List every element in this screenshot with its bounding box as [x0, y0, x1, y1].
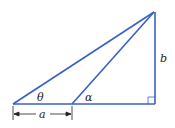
right-angle-marker [148, 97, 155, 104]
triangle-diagram: θ α b a [0, 0, 175, 128]
alpha-label: α [85, 91, 93, 104]
theta-label: θ [37, 91, 44, 104]
triangle-lines [13, 12, 155, 104]
b-label: b [160, 52, 167, 65]
a-label: a [39, 108, 46, 121]
